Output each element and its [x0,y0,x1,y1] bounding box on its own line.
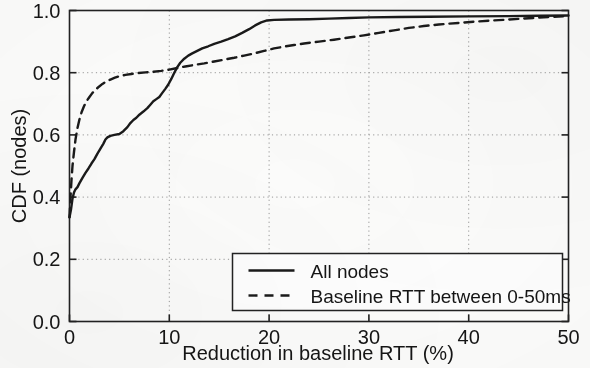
cdf-chart-figure: 0.00.20.40.60.81.001020304050 Reduction … [0,0,590,368]
x-tick-label: 10 [158,326,180,348]
y-axis-label: CDF (nodes) [8,109,30,223]
x-tick-label: 40 [458,326,480,348]
y-tick-label: 0.6 [33,124,61,146]
x-tick-label: 50 [557,326,579,348]
curve-series-1 [70,15,569,217]
x-axis-label: Reduction in baseline RTT (%) [182,342,454,364]
legend-label-1: All nodes [311,261,389,282]
curve-series-2 [70,16,569,217]
chart-svg: 0.00.20.40.60.81.001020304050 Reduction … [0,0,590,368]
y-tick-label: 0.8 [33,62,61,84]
y-tick-label: 0.0 [33,311,61,333]
y-tick-label: 1.0 [33,0,61,22]
y-tick-label: 0.4 [33,186,61,208]
x-tick-label: 0 [64,326,75,348]
chart-legend: All nodesBaseline RTT between 0-50ms [233,254,571,311]
y-tick-label: 0.2 [33,248,61,270]
data-curves [70,15,569,217]
legend-label-2: Baseline RTT between 0-50ms [311,286,571,307]
